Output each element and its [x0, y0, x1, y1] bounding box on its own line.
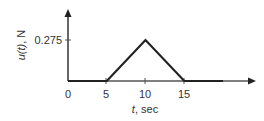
x-axis-arrow-icon [248, 78, 256, 85]
x-tick-label-10: 10 [139, 88, 151, 100]
x-tick-label-15: 15 [178, 88, 190, 100]
x-axis-title: t, sec [132, 103, 159, 115]
y-axis-title: u(t), N [15, 30, 27, 61]
y-axis-arrow-icon [65, 9, 72, 17]
chart: 0 5 10 15 0.275 t, sec u(t), N [0, 0, 264, 121]
y-axis-title-var: u(t) [15, 43, 27, 60]
y-tick-label: 0.275 [34, 34, 62, 46]
x-tick-label-0: 0 [65, 88, 71, 100]
y-axis-title-unit: , N [15, 30, 27, 44]
x-axis-title-unit: , sec [135, 103, 159, 115]
data-series-line [68, 40, 223, 81]
x-tick-label-5: 5 [103, 88, 109, 100]
